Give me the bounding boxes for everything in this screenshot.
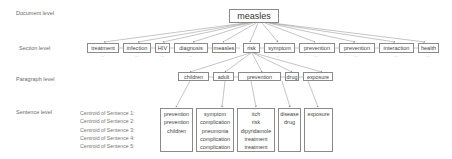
level-label-document: Document level: [16, 10, 54, 16]
sentence-line: prevention: [161, 118, 192, 126]
section-node: symptom: [264, 43, 295, 53]
document-node: measles: [229, 9, 279, 23]
sentence-line: pneumonia: [197, 127, 233, 135]
level-label-sentence: Sentence level: [16, 109, 52, 115]
sentence-line: complication: [197, 118, 233, 126]
section-ellipsis: ...: [394, 54, 397, 58]
section-node: measles: [212, 43, 236, 53]
sentence-line: prevention: [161, 110, 192, 118]
sentence-line: risk: [238, 118, 274, 126]
section-ellipsis: ...: [161, 54, 164, 58]
sentence-node: exposure: [304, 108, 333, 152]
section-node: treatment: [87, 43, 119, 53]
level-label-paragraph: Paragraph level: [16, 76, 55, 82]
sentence-node: prevention prevention children: [160, 108, 193, 152]
sentence-node: disease drug: [278, 108, 301, 152]
section-node: health: [418, 43, 439, 53]
paragraph-node: prevention: [238, 72, 281, 81]
section-node: infection: [123, 43, 151, 53]
sentence-line: disease: [279, 110, 300, 118]
sentence-line: symptom: [197, 110, 233, 118]
section-node: risk: [243, 43, 260, 53]
sentence-line: treatment: [238, 143, 274, 151]
section-ellipsis: ...: [426, 54, 429, 58]
section-ellipsis: ...: [354, 54, 357, 58]
section-ellipsis: ...: [314, 54, 317, 58]
sentence-line: exposure: [305, 110, 332, 118]
paragraph-node: children: [178, 72, 209, 81]
paragraph-node: adult: [213, 72, 234, 81]
paragraph-node: exposure: [303, 72, 333, 81]
section-ellipsis: ...: [135, 54, 138, 58]
sentence-line: dipyridamole: [238, 127, 274, 135]
section-node: interaction: [379, 43, 414, 53]
section-node: HIV: [155, 43, 170, 53]
sentence-node: itch risk dipyridamole treatment treatme…: [237, 108, 275, 152]
centroid-label: Centroid of Sentence 2:: [80, 117, 135, 125]
section-ellipsis: ...: [189, 54, 192, 58]
centroid-label: Centroid of Sentence 4:: [80, 134, 135, 142]
centroid-label: Centroid of Sentence 5:: [80, 142, 135, 150]
level-label-section: Section level: [19, 45, 50, 51]
sentence-line: complication: [197, 143, 233, 151]
section-ellipsis: ...: [276, 54, 279, 58]
centroid-label: Centroid of Sentence 3:: [80, 126, 135, 134]
sentence-line: drug: [279, 118, 300, 126]
section-ellipsis: ...: [101, 54, 104, 58]
centroid-label: Centroid of Sentence 1:: [80, 109, 135, 117]
sentence-line: itch: [238, 110, 274, 118]
section-node: diagnosis: [174, 43, 208, 53]
sentence-line: treatment: [238, 135, 274, 143]
sentence-line: complication: [197, 135, 233, 143]
sentence-node: symptom complication pneumonia complicat…: [196, 108, 234, 152]
paragraph-node: drug: [285, 72, 299, 81]
section-node: prevention: [299, 43, 335, 53]
section-node: prevention: [339, 43, 375, 53]
sentence-line: children: [161, 127, 192, 135]
